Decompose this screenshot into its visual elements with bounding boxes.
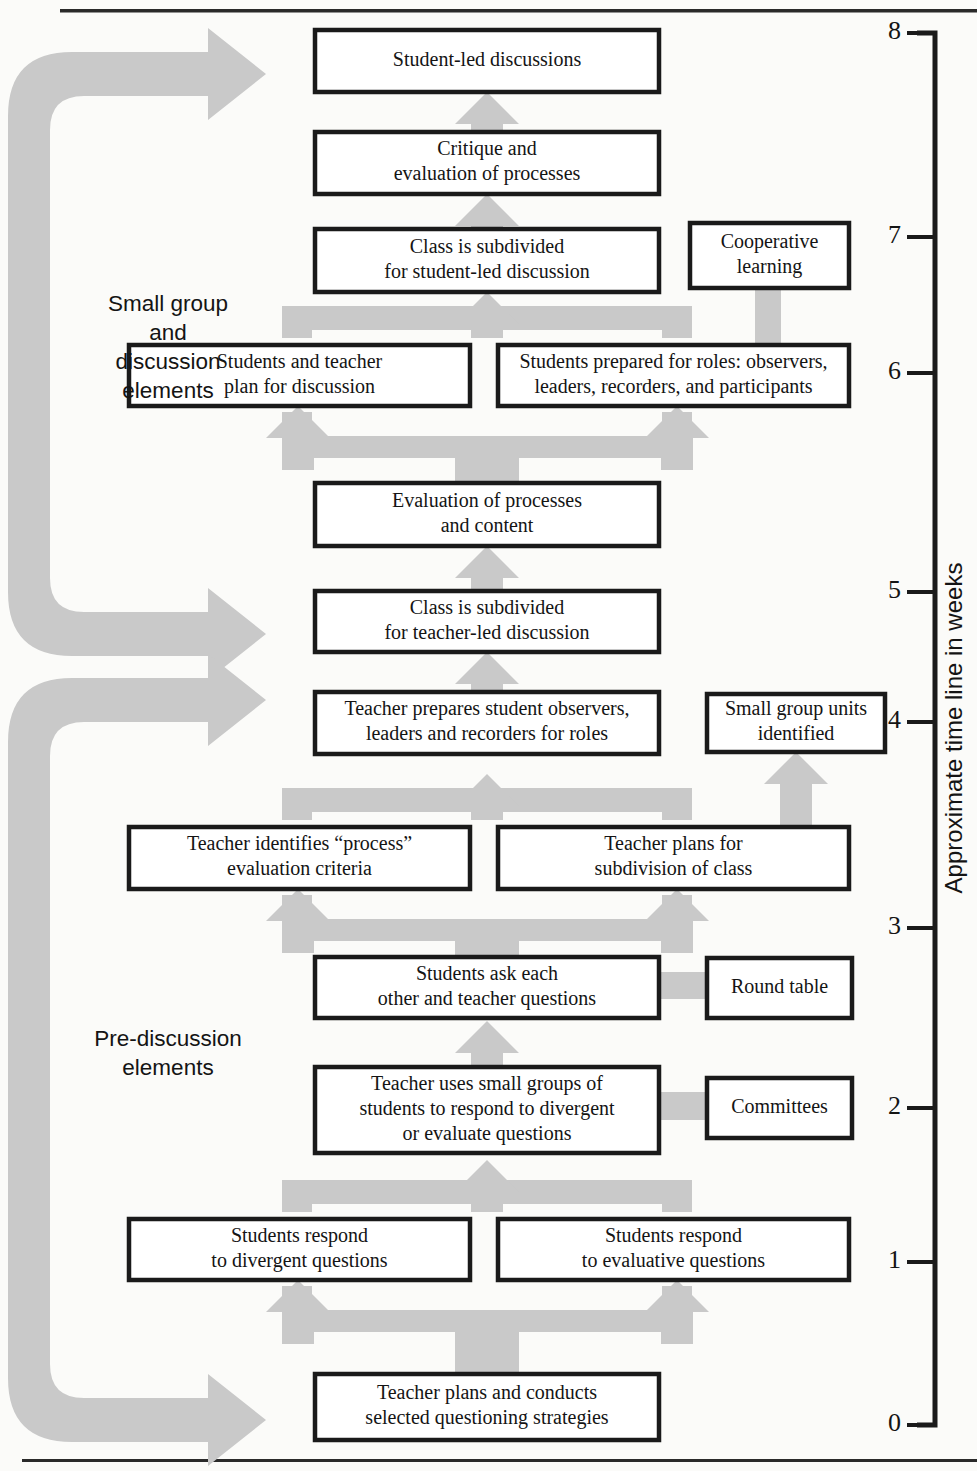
flow-node-students-prepared-for-roles[interactable]: Students prepared for roles: observers,l… <box>498 345 849 406</box>
connector-bar-cooperative-learning <box>755 288 781 346</box>
bottom-rule <box>22 1459 977 1462</box>
node-label-line: Class is subdivided <box>410 235 564 257</box>
flow-node-class-subdivided-teacher-led[interactable]: Class is subdividedfor teacher-led discu… <box>315 591 659 652</box>
flow-node-teacher-uses-small-groups[interactable]: Teacher uses small groups ofstudents to … <box>315 1067 659 1153</box>
flow-node-committees[interactable]: Committees <box>707 1078 852 1138</box>
tick-label: 2 <box>888 1091 901 1120</box>
flow-node-students-ask-each-other[interactable]: Students ask eachother and teacher quest… <box>315 957 659 1018</box>
axis-tick-2: 2 <box>888 1091 935 1120</box>
connector-arrow-up-to-student-led-discussions <box>455 92 519 132</box>
axis-tick-0: 0 <box>888 1408 935 1437</box>
connector-arrow-up-to-small-group-units <box>764 752 828 827</box>
node-label-line: Class is subdivided <box>410 596 564 618</box>
node-label-line: learning <box>737 255 803 278</box>
connector-split-up-from-evaluation <box>266 406 709 483</box>
node-label-line: Teacher plans and conducts <box>377 1381 597 1404</box>
axis-tick-5: 5 <box>888 575 935 604</box>
tick-label: 5 <box>888 575 901 604</box>
group-label-line: discussion <box>115 349 220 374</box>
tick-label: 8 <box>888 16 901 45</box>
connector-merge-up-to-class-subdivided-student-led <box>282 292 692 338</box>
flow-node-small-group-units-identified[interactable]: Small group unitsidentified <box>707 694 885 752</box>
node-label-line: Students ask each <box>416 962 558 984</box>
axis-tick-6: 6 <box>888 356 935 385</box>
group-label-pre-discussion: Pre-discussionelements <box>94 1026 242 1080</box>
node-label-line: Students respond <box>605 1224 742 1247</box>
flow-node-round-table[interactable]: Round table <box>707 958 852 1018</box>
node-label-line: Critique and <box>437 137 536 160</box>
axis-tick-1: 1 <box>888 1245 935 1274</box>
node-label-line: Students respond <box>231 1224 368 1247</box>
connector-split-up-from-students-ask <box>266 889 709 962</box>
node-label-line: for teacher-led discussion <box>384 621 589 643</box>
group-label-line: elements <box>122 378 213 403</box>
flow-node-cooperative-learning[interactable]: Cooperativelearning <box>690 223 849 288</box>
node-label-line: plan for discussion <box>224 375 375 398</box>
node-label-line: Teacher plans for <box>604 832 743 855</box>
node-label-line: and content <box>441 514 534 536</box>
connector-arrow-up-to-evaluation <box>455 546 519 591</box>
group-label-line: elements <box>122 1055 213 1080</box>
flow-node-critique-and-evaluation-of-processes[interactable]: Critique andevaluation of processes <box>315 132 659 194</box>
node-label-line: Student-led discussions <box>393 48 582 70</box>
node-label-line: Students and teacher <box>217 350 383 372</box>
tick-label: 3 <box>888 911 901 940</box>
top-rule <box>60 9 977 13</box>
node-label-line: Teacher prepares student observers, <box>344 697 629 720</box>
flow-node-teacher-plans-and-conducts[interactable]: Teacher plans and conductsselected quest… <box>315 1374 659 1440</box>
connector-arrow-up-to-critique <box>455 194 519 229</box>
flow-node-teacher-prepares-student-observers[interactable]: Teacher prepares student observers,leade… <box>315 692 659 754</box>
flow-node-teacher-plans-subdivision[interactable]: Teacher plans forsubdivision of class <box>498 827 849 889</box>
flow-node-teacher-identifies-process-criteria[interactable]: Teacher identifies “process”evaluation c… <box>129 827 470 889</box>
node-label-line: other and teacher questions <box>378 987 596 1010</box>
node-label-line: Evaluation of processes <box>392 489 582 512</box>
flow-node-student-led-discussions[interactable]: Student-led discussions <box>315 30 659 92</box>
connector-arrow-up-to-class-subdivided-teacher-led <box>455 652 519 692</box>
flowchart-diagram: Student-led discussionsCritique andevalu… <box>0 0 977 1471</box>
flow-node-students-respond-divergent[interactable]: Students respondto divergent questions <box>129 1219 470 1280</box>
node-label-line: Committees <box>731 1095 828 1117</box>
tick-label: 1 <box>888 1245 901 1274</box>
node-label-line: Small group units <box>725 697 867 720</box>
tick-label: 0 <box>888 1408 901 1437</box>
node-label-line: or evaluate questions <box>403 1122 572 1145</box>
node-label-line: evaluation criteria <box>227 857 372 879</box>
node-label-line: Teacher identifies “process” <box>187 832 412 855</box>
connector-split-up-from-teacher-plans-and-conducts <box>266 1280 709 1374</box>
node-label-line: to evaluative questions <box>582 1249 766 1272</box>
node-label-line: identified <box>758 722 835 744</box>
node-label-line: leaders and recorders for roles <box>366 722 608 744</box>
flow-node-evaluation-of-processes-and-content[interactable]: Evaluation of processesand content <box>315 483 659 546</box>
connector-bar-round-table <box>659 972 707 999</box>
node-label-line: evaluation of processes <box>394 162 581 185</box>
axis-title: Approximate time line in weeks <box>940 563 967 894</box>
flowchart-nodes: Student-led discussionsCritique andevalu… <box>129 30 885 1440</box>
connector-merge-up-to-teacher-prepares <box>282 774 692 820</box>
axis-tick-7: 7 <box>888 220 935 249</box>
axis-tick-8: 8 <box>888 16 935 45</box>
node-label-line: leaders, recorders, and participants <box>534 375 812 398</box>
tick-label: 7 <box>888 220 901 249</box>
node-label-line: for student-led discussion <box>384 260 590 282</box>
axis-tick-3: 3 <box>888 911 935 940</box>
node-label-line: subdivision of class <box>595 857 753 879</box>
tick-label: 6 <box>888 356 901 385</box>
node-label-line: Cooperative <box>721 230 819 253</box>
axis-tick-marks: 876543210 <box>888 16 935 1437</box>
group-label-line: Pre-discussion <box>94 1026 242 1051</box>
node-label-line: Students prepared for roles: observers, <box>519 350 827 373</box>
connector-merge-up-to-teacher-uses-small-groups <box>282 1160 692 1212</box>
node-label-line: Round table <box>731 975 828 997</box>
tick-label: 4 <box>888 705 901 734</box>
time-axis: 876543210 Approximate time line in weeks <box>888 16 967 1437</box>
node-label-line: selected questioning strategies <box>365 1406 608 1429</box>
flow-node-students-respond-evaluative[interactable]: Students respondto evaluative questions <box>498 1219 849 1280</box>
node-label-line: Teacher uses small groups of <box>371 1072 603 1095</box>
node-label-line: students to respond to divergent <box>359 1097 615 1120</box>
figure-canvas: Student-led discussionsCritique andevalu… <box>0 0 977 1471</box>
axis-tick-4: 4 <box>888 705 935 734</box>
group-label-line: Small group <box>108 291 228 316</box>
connector-bar-committees <box>659 1092 707 1120</box>
flow-node-class-subdivided-student-led[interactable]: Class is subdividedfor student-led discu… <box>315 229 659 292</box>
group-label-line: and <box>149 320 187 345</box>
